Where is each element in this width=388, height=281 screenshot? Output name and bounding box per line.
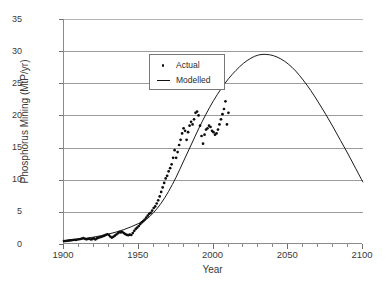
x-tick-mark-1930 [108, 244, 109, 247]
actual-data-point [193, 118, 196, 121]
phosphorus-mining-chart: Phosphorus Mining (MtP/yr) 0510152025303… [0, 0, 388, 281]
x-tick-mark-1920 [93, 244, 94, 247]
x-tick-label-2050: 2050 [257, 250, 317, 260]
x-tick-label-1950: 1950 [108, 250, 168, 260]
actual-data-point [188, 124, 191, 127]
actual-series-points [63, 100, 230, 243]
x-tick-label-2000: 2000 [183, 250, 243, 260]
y-tick-label-25: 25 [0, 79, 22, 88]
x-tick-mark-2060 [302, 244, 303, 247]
actual-data-point [203, 133, 206, 136]
actual-data-point [227, 112, 230, 115]
actual-data-point [161, 186, 164, 189]
legend-label-modelled: Modelled [176, 76, 211, 85]
y-tick-label-20: 20 [0, 111, 22, 120]
actual-data-point [217, 128, 220, 131]
actual-data-point [173, 149, 176, 152]
actual-data-point [197, 114, 200, 117]
actual-data-point [164, 177, 167, 180]
y-tick-label-15: 15 [0, 143, 22, 152]
x-tick-mark-2040 [272, 244, 273, 247]
actual-data-point [155, 202, 158, 205]
x-tick-mark-1940 [123, 244, 124, 247]
actual-data-point [220, 118, 223, 121]
actual-data-point [160, 191, 163, 194]
y-tick-label-5: 5 [0, 207, 22, 216]
x-tick-mark-2090 [347, 244, 348, 247]
actual-data-point [158, 195, 161, 198]
actual-data-point [209, 126, 212, 129]
actual-data-point [212, 131, 215, 134]
legend-label-actual: Actual [176, 61, 200, 70]
chart-legend: Actual Modelled [149, 54, 225, 90]
actual-data-point [185, 139, 188, 142]
actual-data-point [184, 130, 187, 133]
x-tick-mark-2030 [257, 244, 258, 247]
x-tick-label-2100: 2100 [332, 250, 388, 260]
actual-data-point [218, 123, 221, 126]
actual-data-point [169, 167, 172, 170]
x-axis-title: Year [63, 264, 362, 275]
actual-data-point [157, 199, 160, 202]
actual-data-point [190, 121, 193, 124]
actual-data-point [199, 124, 202, 127]
actual-data-point [223, 108, 226, 111]
legend-marker-dot-icon [150, 64, 176, 67]
actual-data-point [221, 113, 224, 116]
plot-area: Actual Modelled [63, 19, 362, 244]
actual-data-point [182, 127, 185, 130]
actual-data-point [167, 170, 170, 173]
actual-data-point [181, 132, 184, 135]
actual-data-point [163, 182, 166, 185]
x-tick-mark-1910 [78, 244, 79, 247]
actual-data-point [206, 127, 209, 130]
y-tick-label-30: 30 [0, 47, 22, 56]
actual-data-point [191, 123, 194, 126]
x-tick-mark-2010 [228, 244, 229, 247]
actual-data-point [176, 151, 179, 154]
y-tick-label-35: 35 [0, 15, 22, 24]
actual-data-point [202, 142, 205, 145]
x-tick-label-1900: 1900 [33, 250, 93, 260]
x-tick-mark-1980 [183, 244, 184, 247]
actual-data-point [224, 100, 227, 103]
actual-data-point [172, 157, 175, 160]
actual-data-point [179, 139, 182, 142]
x-tick-mark-1970 [168, 244, 169, 247]
x-tick-mark-1990 [198, 244, 199, 247]
x-tick-mark-2020 [242, 244, 243, 247]
actual-data-point [151, 209, 154, 212]
actual-data-point [178, 144, 181, 147]
actual-data-point [131, 232, 134, 235]
x-tick-mark-2070 [317, 244, 318, 247]
actual-data-point [226, 123, 229, 126]
actual-data-point [200, 135, 203, 138]
actual-data-point [196, 110, 199, 113]
data-series-layer [64, 19, 363, 244]
x-tick-mark-1960 [153, 244, 154, 247]
actual-data-point [175, 157, 178, 160]
legend-entry-actual: Actual [150, 58, 224, 73]
actual-data-point [166, 175, 169, 178]
legend-marker-line-icon [150, 80, 176, 81]
actual-data-point [187, 131, 190, 134]
actual-data-point [170, 163, 173, 166]
x-tick-mark-2080 [332, 244, 333, 247]
actual-data-point [215, 132, 218, 135]
actual-data-point [154, 205, 157, 208]
y-tick-label-0: 0 [0, 240, 22, 249]
y-tick-label-10: 10 [0, 175, 22, 184]
legend-entry-modelled: Modelled [150, 73, 224, 88]
actual-data-point [149, 211, 152, 214]
